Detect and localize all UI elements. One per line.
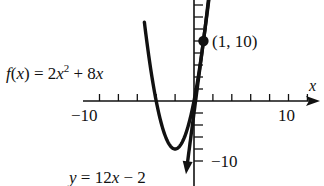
- parabola-equation-label: f(x) = 2x2 + 8x: [6, 65, 103, 82]
- x-tick-label-neg10: −10: [71, 107, 98, 124]
- x-axis: [83, 94, 320, 106]
- point-label: (1, 10): [212, 33, 257, 50]
- line-y: y: [69, 168, 77, 186]
- tangent-arrow-icon: [183, 161, 193, 175]
- line-rest: − 2: [119, 168, 146, 186]
- f-eq: = 2: [30, 64, 57, 83]
- x-tick-label-10: 10: [278, 107, 295, 124]
- line-eq: = 12: [77, 168, 112, 186]
- tangent-equation-label: y = 12x − 2: [69, 169, 146, 186]
- f-var: x: [16, 64, 24, 83]
- x-axis-label: x: [309, 78, 316, 94]
- f-x1: x: [56, 64, 64, 83]
- y-tick-label-neg10: −10: [211, 153, 238, 170]
- tangent-point-marker: [198, 36, 208, 46]
- f-plus: + 8: [69, 64, 96, 83]
- tangent-line: [187, 0, 209, 166]
- f-x2: x: [96, 64, 104, 83]
- graph-canvas: [0, 0, 324, 186]
